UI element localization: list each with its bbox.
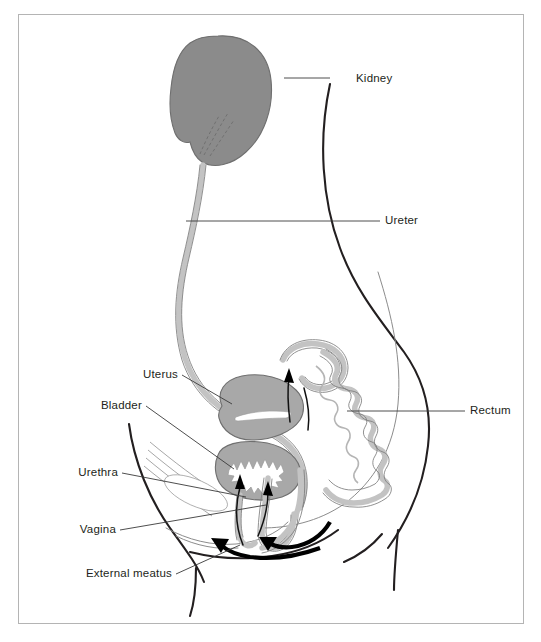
- labels-group: Kidney Ureter Rectum Uterus Bladder Uret…: [78, 72, 511, 579]
- bladder-filling-arrow: [304, 388, 309, 430]
- bladder-structure: [215, 442, 300, 501]
- rectum-outline-posterior: [323, 349, 391, 507]
- label-rectum: Rectum: [470, 404, 511, 416]
- anterior-thigh-outline: [190, 568, 196, 616]
- leader-line-vagina: [120, 505, 266, 530]
- leader-lines-group: [120, 78, 465, 574]
- label-ureter: Ureter: [385, 214, 418, 226]
- label-uterus: Uterus: [143, 368, 178, 380]
- kidney-structure: [170, 36, 271, 166]
- label-bladder: Bladder: [101, 399, 142, 411]
- back-body-outline: [323, 84, 429, 548]
- uterus-structure: [219, 375, 304, 440]
- sigmoid-direction-arrowhead: [284, 368, 294, 383]
- uterus-shape: [219, 375, 304, 440]
- anatomy-diagram: Kidney Ureter Rectum Uterus Bladder Uret…: [0, 0, 541, 642]
- figure-root: Kidney Ureter Rectum Uterus Bladder Uret…: [0, 0, 541, 642]
- label-vagina: Vagina: [80, 523, 117, 535]
- label-external-meatus: External meatus: [86, 567, 172, 579]
- label-kidney: Kidney: [356, 72, 392, 84]
- kidney-shape: [170, 36, 271, 166]
- gluteal-fold-outline: [344, 534, 382, 562]
- label-urethra: Urethra: [78, 466, 118, 478]
